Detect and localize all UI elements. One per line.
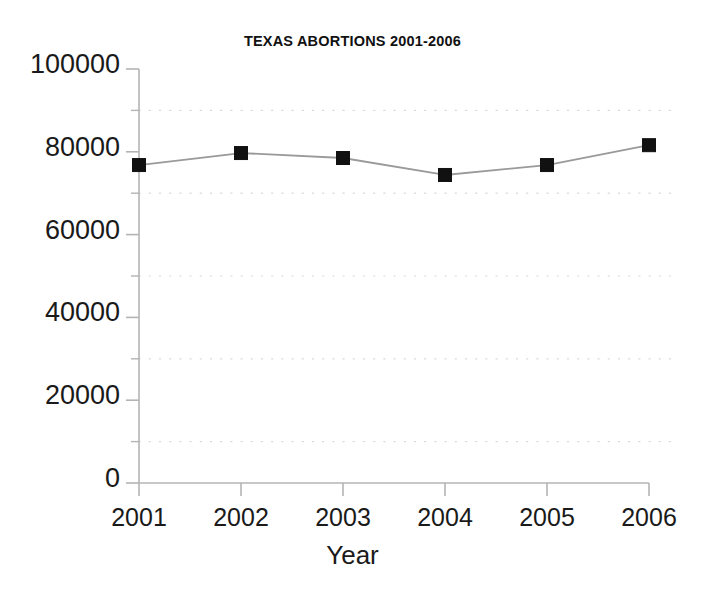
gridlines-minor [139,110,672,441]
y-axis-tick-label: 20000 [45,382,120,409]
data-point-marker [439,168,452,181]
y-axis-tick-label: 80000 [45,134,120,161]
y-axis [126,69,139,483]
x-axis [139,483,649,496]
data-point-marker [643,139,656,152]
series-line [139,145,649,175]
data-point-marker [337,152,350,165]
data-point-marker [235,147,248,160]
x-axis-tick-label: 2006 [589,505,705,530]
data-point-marker [541,159,554,172]
y-axis-tick-label: 100000 [30,51,120,78]
x-axis-title: Year [0,540,705,571]
y-axis-tick-label: 60000 [45,217,120,244]
y-axis-tick-label: 0 [105,465,120,492]
chart-container: TEXAS ABORTIONS 2001-2006 02000040000600… [0,0,705,597]
data-series-line [139,145,649,175]
y-axis-tick-label: 40000 [45,299,120,326]
data-point-marker [133,159,146,172]
